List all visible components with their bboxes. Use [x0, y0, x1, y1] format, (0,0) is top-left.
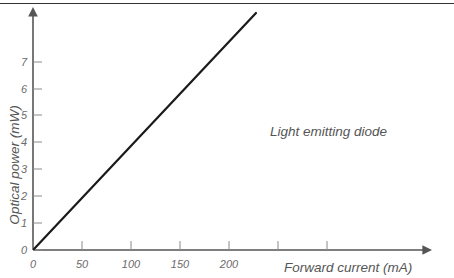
x-tick-label-200: 200 [219, 258, 239, 270]
chart-figure: 0 1 2 3 4 5 6 7 0 50 100 150 200 Forward… [0, 0, 454, 278]
x-tick-label-100: 100 [122, 258, 141, 270]
x-axis-title: Forward current (mA) [284, 260, 412, 275]
y-axis-title: Optical power (mW) [7, 105, 22, 224]
led-data-line [34, 13, 256, 249]
x-axis-ticks [33, 241, 327, 250]
x-tick-label-0: 0 [30, 258, 37, 270]
y-tick-label-0: 0 [21, 244, 28, 256]
y-tick-label-6: 6 [21, 83, 28, 95]
led-characteristic-chart: 0 1 2 3 4 5 6 7 0 50 100 150 200 Forward… [0, 0, 454, 278]
y-tick-label-7: 7 [21, 56, 28, 68]
y-axis-ticks [33, 62, 42, 250]
x-tick-label-150: 150 [171, 258, 190, 270]
series-annotation-label: Light emitting diode [270, 124, 387, 139]
x-tick-label-50: 50 [76, 258, 89, 270]
x-axis-tick-labels: 0 50 100 150 200 [30, 258, 239, 270]
